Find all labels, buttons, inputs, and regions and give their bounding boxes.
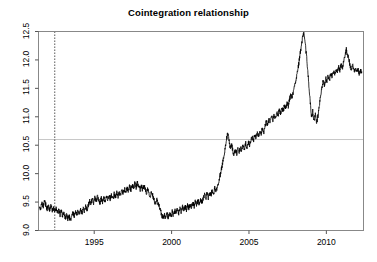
- y-tick-label: 12.5: [21, 16, 31, 46]
- x-tick-label: 1995: [74, 237, 114, 247]
- y-tick-label: 12.0: [21, 44, 31, 74]
- y-tick-label: 9.5: [21, 186, 31, 216]
- x-tick-label: 2000: [152, 237, 192, 247]
- x-tick-label: 2005: [229, 237, 269, 247]
- y-tick-label: 11.0: [21, 101, 31, 131]
- x-tick-label: 2010: [306, 237, 346, 247]
- y-tick-label: 10.5: [21, 129, 31, 159]
- chart-figure: Cointegration relationship 9.09.510.010.…: [0, 0, 377, 262]
- plot-area: [0, 0, 377, 262]
- series-line-0: [39, 32, 362, 221]
- y-tick-label: 9.0: [21, 215, 31, 245]
- y-tick-label: 11.5: [21, 72, 31, 102]
- y-tick-label: 10.0: [21, 158, 31, 188]
